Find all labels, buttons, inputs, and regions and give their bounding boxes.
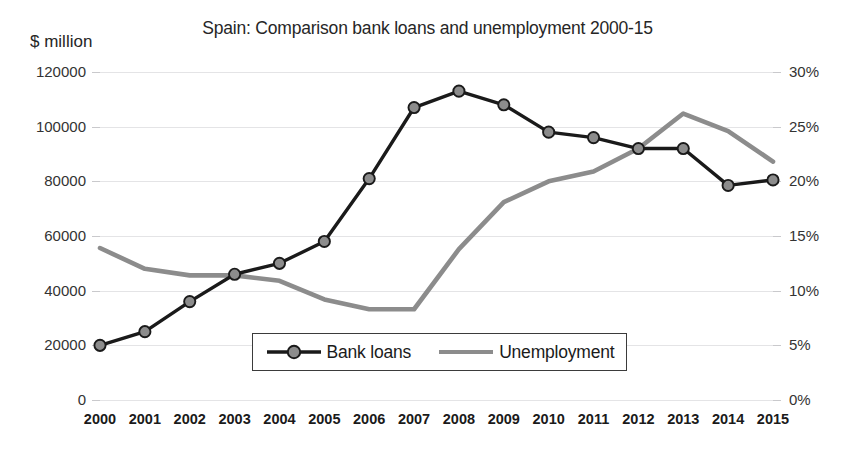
legend-label-bank-loans: Bank loans [327, 342, 412, 363]
tick-mark-right [773, 291, 781, 292]
tick-mark-right [773, 236, 781, 237]
y-axis-tick-label: 80000 [0, 173, 86, 188]
legend-swatch-line-icon [437, 343, 495, 361]
chart-container: Spain: Comparison bank loans and unemplo… [0, 0, 855, 451]
y-axis-tick-label: 0 [0, 392, 86, 407]
data-point-marker [229, 269, 240, 280]
gridline [100, 236, 773, 237]
left-axis-caption: $ million [30, 32, 92, 52]
data-point-marker [678, 143, 689, 154]
chart-legend: Bank loans Unemployment [252, 333, 627, 371]
data-point-marker [274, 258, 285, 269]
y-axis-tick-label: 20000 [0, 337, 86, 352]
y2-axis-tick-label: 5% [789, 337, 811, 352]
tick-mark-left [92, 291, 100, 292]
tick-mark-left [92, 181, 100, 182]
legend-label-unemployment: Unemployment [499, 342, 614, 363]
series-layer [0, 0, 855, 451]
y-axis-tick-label: 60000 [0, 228, 86, 243]
gridline [100, 72, 773, 73]
tick-mark-left [92, 236, 100, 237]
y2-axis-tick-label: 0% [789, 392, 811, 407]
legend-item-unemployment[interactable]: Unemployment [437, 342, 614, 363]
gridline [100, 181, 773, 182]
data-point-marker [633, 143, 644, 154]
data-point-marker [453, 86, 464, 97]
y-axis-tick-label: 100000 [0, 119, 86, 134]
series-line-unemployment [100, 114, 773, 310]
tick-mark-right [773, 181, 781, 182]
series-line-bank-loans [100, 91, 773, 345]
data-point-marker [498, 99, 509, 110]
data-point-marker [408, 102, 419, 113]
y-axis-tick-label: 120000 [0, 64, 86, 79]
data-point-marker [767, 174, 778, 185]
tick-mark-left [92, 400, 100, 401]
legend-item-bank-loans[interactable]: Bank loans [265, 342, 412, 363]
data-point-marker [184, 296, 195, 307]
tick-mark-right [773, 72, 781, 73]
data-point-marker [364, 173, 375, 184]
tick-mark-right [773, 127, 781, 128]
x-axis-tick-label: 2015 [745, 412, 801, 427]
gridline [100, 291, 773, 292]
data-point-marker [588, 132, 599, 143]
y2-axis-tick-label: 25% [789, 119, 819, 134]
gridline [100, 400, 773, 401]
y-axis-tick-label: 40000 [0, 283, 86, 298]
gridline [100, 127, 773, 128]
y2-axis-tick-label: 20% [789, 173, 819, 188]
y2-axis-tick-label: 10% [789, 283, 819, 298]
tick-mark-left [92, 127, 100, 128]
chart-title: Spain: Comparison bank loans and unemplo… [0, 18, 855, 39]
tick-mark-right [773, 400, 781, 401]
tick-mark-left [92, 72, 100, 73]
tick-mark-right [773, 345, 781, 346]
data-point-marker [543, 127, 554, 138]
data-point-marker [319, 236, 330, 247]
legend-swatch-line-marker-icon [265, 343, 323, 361]
y2-axis-tick-label: 15% [789, 228, 819, 243]
tick-mark-left [92, 345, 100, 346]
y2-axis-tick-label: 30% [789, 64, 819, 79]
data-point-marker [139, 326, 150, 337]
